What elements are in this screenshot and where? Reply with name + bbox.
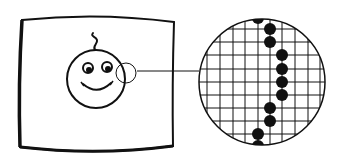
zoomed-pixel-view	[198, 12, 326, 152]
magnifier-circle	[116, 63, 136, 83]
tv-screen	[19, 16, 174, 151]
smile-icon	[83, 83, 111, 90]
pixel-grid	[198, 12, 326, 152]
diagram-canvas	[0, 0, 341, 164]
right-eye-icon	[102, 62, 112, 72]
left-eye-icon	[83, 63, 93, 73]
hair-curl-icon	[92, 33, 97, 50]
